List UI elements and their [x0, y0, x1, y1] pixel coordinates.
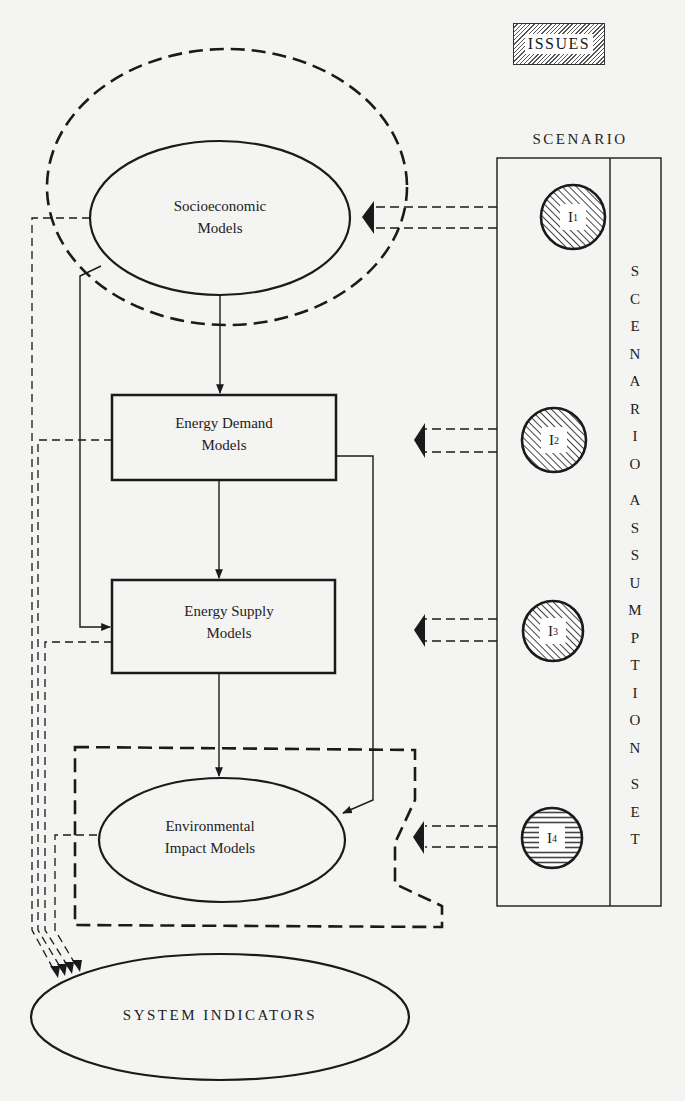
vertical-letter: E: [612, 313, 658, 341]
scenario-assumption-set-label: SCENARIOASSUMPTIONSET: [612, 258, 658, 854]
issue-label-i4: I4: [539, 825, 565, 851]
issue-label-i1: I1: [560, 204, 586, 230]
issues-label: ISSUES: [525, 34, 593, 54]
vertical-letter: A: [612, 487, 658, 515]
vertical-letter: O: [612, 707, 658, 735]
vertical-letter: C: [612, 286, 658, 314]
arrowhead-to-energy-demand: [414, 423, 425, 458]
modeling-framework-diagram: [0, 0, 685, 1101]
vertical-letter: N: [612, 735, 658, 763]
arrowhead-to-socioeconomic: [362, 201, 374, 234]
vertical-letter: O: [612, 451, 658, 479]
vertical-letter: S: [612, 258, 658, 286]
vertical-letter: T: [612, 652, 658, 680]
vertical-letter: E: [612, 799, 658, 827]
vertical-letter: P: [612, 625, 658, 653]
arrowhead-to-environmental: [413, 821, 424, 854]
vertical-letter: I: [612, 423, 658, 451]
vertical-letter: N: [612, 341, 658, 369]
energy-supply-models-label: Energy Supply Models: [117, 600, 341, 644]
vertical-letter: U: [612, 570, 658, 598]
vertical-letter: R: [612, 396, 658, 424]
outputs-to-system-indicators: [32, 218, 112, 972]
issue-label-i3: I3: [540, 618, 566, 644]
vertical-letter: M: [612, 597, 658, 625]
vertical-letter: S: [612, 542, 658, 570]
vertical-letter: S: [612, 771, 658, 799]
energy-demand-models-label: Energy Demand Models: [112, 412, 336, 456]
vertical-letter: S: [612, 515, 658, 543]
vertical-letter: I: [612, 680, 658, 708]
flow-demand-to-env: [336, 456, 373, 813]
socioeconomic-models-label: Socioeconomic Models: [120, 195, 320, 239]
environmental-impact-models-label: Environmental Impact Models: [110, 815, 310, 859]
arrowhead-to-energy-supply: [414, 614, 425, 647]
vertical-letter: T: [612, 826, 658, 854]
vertical-letter: A: [612, 368, 658, 396]
scenario-heading: SCENARIO: [500, 131, 660, 148]
issues-legend: ISSUES: [513, 23, 605, 65]
system-indicators-label: SYSTEM INDICATORS: [60, 1007, 380, 1024]
issue-label-i2: I2: [541, 427, 567, 453]
flow-socio-to-supply: [80, 266, 110, 627]
